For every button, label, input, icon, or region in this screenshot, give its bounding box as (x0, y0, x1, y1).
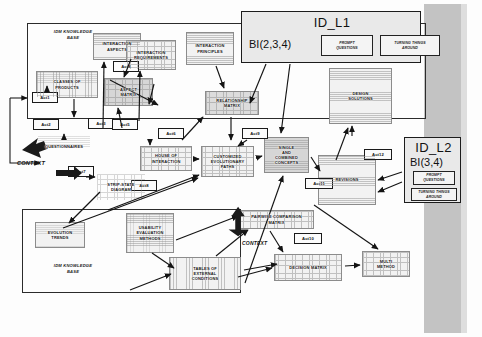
activity-act10[interactable]: Act10 (294, 233, 322, 244)
diagram-canvas: IDM KNOWLEDGEBASE IDM KNOWLEDGEBASE ID_L… (0, 0, 482, 337)
activity-act5[interactable]: Act5 (112, 119, 138, 130)
panel-id-l1-prompt-questions-box[interactable]: PROMPTQUESTIONS (321, 35, 373, 56)
artifact-relationship-matrix[interactable]: RELATIONSHIPMATRIX (205, 91, 259, 115)
activity-act7[interactable]: Act7 (68, 166, 94, 177)
artifact-label: USABILITYEVALUATIONMETHODS (137, 225, 164, 241)
artifact-strip-state-diagram[interactable]: STRIP-STATEDIAGRAM (97, 174, 145, 200)
artifact-label: TABLES OFEXTERNALCONDITIONS (192, 266, 219, 282)
artifact-aspect-matrix[interactable]: ASPECTMATRIX (104, 78, 153, 106)
artifact-interaction-requirements[interactable]: INTERACTIONREQUIREMENTS (126, 40, 176, 70)
artifact-interaction-principles[interactable]: INTERACTIONPRINCIPLES (186, 32, 234, 65)
turning-things-around-label: TURNING THINGSAROUND (394, 41, 426, 50)
artifact-label: REVISIONS (335, 177, 358, 182)
artifact-tables-of-external-conditions[interactable]: TABLES OFEXTERNALCONDITIONS (169, 257, 241, 290)
artifact-pairwise-comparison-matrix[interactable]: PAIRWISE COMPARISONMATRIX (239, 210, 314, 229)
artifact-decision-matrix[interactable]: DECISION MATRIX (274, 254, 342, 281)
panel-id-l2-title: ID_L2 (405, 140, 462, 155)
panel-id-l2[interactable]: ID_L2 BI(3,4) PROMPTQUESTIONS TURNING TH… (404, 137, 461, 203)
activity-act3[interactable]: Act3 (88, 118, 114, 129)
activity-act6[interactable]: Act6 (158, 128, 184, 139)
right-gray-band-edge (461, 4, 467, 333)
activity-act2[interactable]: Act2 (33, 119, 59, 130)
artifact-label: INTERACTIONREQUIREMENTS (134, 50, 168, 60)
artifact-label: CUSTOMIZEDEVOLUTIONARYPATHS (211, 154, 244, 170)
artifact-multi-method[interactable]: MULTIMETHOD (362, 251, 410, 277)
artifact-label: EVOLUTIONTRENDS (48, 230, 73, 240)
artifact-label: PAIRWISE COMPARISONMATRIX (251, 214, 302, 224)
artifact-label: SINGLEANDCOMBINEDCONCEPTS (275, 145, 298, 166)
artifact-label: DESIGNSOLUTIONS (348, 91, 373, 101)
context-bottom-label: CONTEXT (242, 240, 267, 246)
panel-id-l2-prompt-questions-box[interactable]: PROMPTQUESTIONS (413, 171, 455, 185)
artifact-label: RELATIONSHIPMATRIX (216, 98, 247, 108)
artifact-label: CLASSES OFPRODUCTS (53, 79, 80, 89)
panel-id-l1-title: ID_L1 (242, 15, 422, 30)
artifact-label: DECISION MATRIX (289, 265, 327, 270)
artifact-usability-evaluation-methods[interactable]: USABILITYEVALUATIONMETHODS (126, 213, 174, 253)
prompt-questions-label: PROMPTQUESTIONS (423, 173, 445, 182)
artifact-evolution-trends[interactable]: EVOLUTIONTRENDS (35, 222, 85, 248)
panel-id-l1[interactable]: ID_L1 BI(2,3,4) PROMPTQUESTIONS TURNING … (241, 11, 421, 63)
panel-id-l1-turning-things-around-box[interactable]: TURNING THINGSAROUND (380, 35, 440, 56)
artifact-design-solutions[interactable]: DESIGNSOLUTIONS (329, 68, 392, 124)
panel-id-l2-turning-things-around-box[interactable]: TURNING THINGSAROUND (411, 188, 457, 201)
artifact-label: ASPECTMATRIX (120, 87, 137, 97)
artifact-label: STRIP-STATEDIAGRAM (107, 182, 134, 192)
panel-id-l1-bi: BI(2,3,4) (249, 38, 315, 50)
prompt-questions-label: PROMPTQUESTIONS (336, 41, 358, 50)
idm-knowledge-base-bottom-label: IDM KNOWLEDGEBASE (38, 263, 108, 274)
artifact-label: MULTIMETHOD (377, 259, 395, 269)
artifact-customized-evolutionary-paths[interactable]: CUSTOMIZEDEVOLUTIONARYPATHS (201, 146, 254, 177)
artifact-house-of-interaction[interactable]: HOUSE OFINTERACTION (140, 146, 192, 171)
artifact-single-and-combined-concepts[interactable]: SINGLEANDCOMBINEDCONCEPTS (264, 137, 309, 173)
artifact-label: INTERACTIONASPECTS (103, 41, 132, 51)
artifact-classes-of-products[interactable]: CLASSES OFPRODUCTS (36, 71, 98, 98)
artifact-questionnaires[interactable]: QUESTIONNAIRES (38, 136, 90, 158)
artifact-label: HOUSE OFINTERACTION (152, 153, 181, 163)
context-left-label: CONTEXT (17, 160, 45, 166)
artifact-label: QUESTIONNAIRES (45, 144, 83, 149)
turning-things-around-label: TURNING THINGSAROUND (418, 190, 450, 199)
panel-id-l2-bi: BI(3,4) (410, 156, 462, 168)
artifact-revisions[interactable]: REVISIONS (318, 155, 376, 205)
artifact-label: INTERACTIONPRINCIPLES (196, 43, 225, 53)
